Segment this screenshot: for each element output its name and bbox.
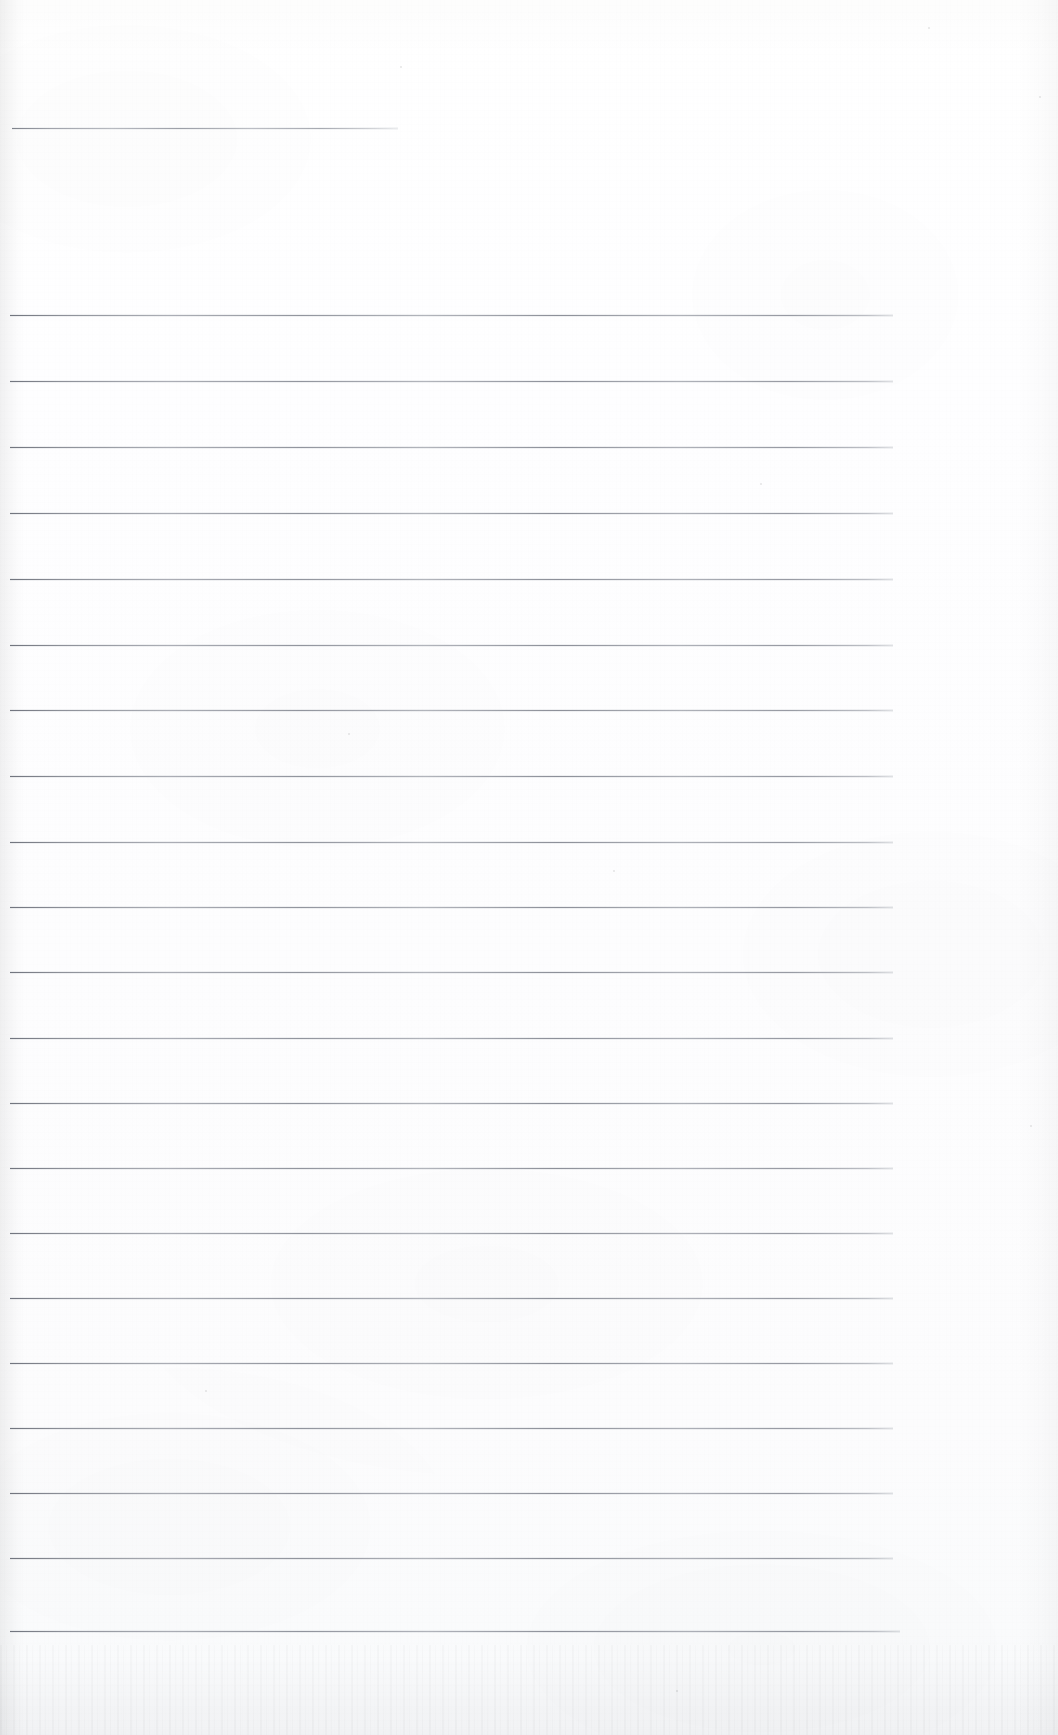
- scan-speck: [760, 483, 762, 485]
- scan-speck: [205, 1390, 207, 1392]
- scan-speck: [348, 733, 350, 735]
- scan-speck: [676, 1690, 678, 1692]
- scan-speck: [928, 27, 930, 29]
- scan-speck: [1030, 1125, 1032, 1127]
- scan-speck: [400, 66, 402, 68]
- scan-specks-layer: [0, 0, 1058, 1735]
- scan-speck: [613, 870, 615, 872]
- scanned-page: [0, 0, 1058, 1735]
- scan-speck: [1039, 96, 1041, 98]
